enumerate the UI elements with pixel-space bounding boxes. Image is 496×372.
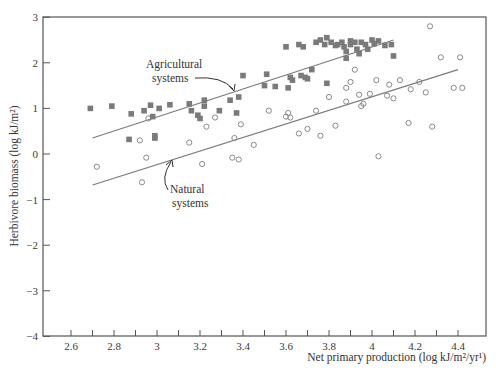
natural-point [305, 126, 310, 131]
natural-point [430, 124, 435, 129]
natural-point [333, 123, 338, 128]
agricultural-point [148, 102, 154, 108]
x-axis-label: Net primary production (log kJ/m²/yr¹) [307, 351, 486, 364]
natural-point [387, 82, 392, 87]
natural-point [344, 99, 349, 104]
agricultural-point [305, 76, 311, 82]
agricultural-point [150, 114, 156, 120]
agricultural-point [141, 108, 147, 114]
natural-point [236, 157, 241, 162]
natural-point [423, 90, 428, 95]
agricultural-point [285, 85, 291, 91]
y-tick-label: 0 [33, 148, 39, 160]
agricultural-systems-points [88, 35, 397, 142]
x-tick-label: 2.6 [64, 340, 78, 352]
agricultural-point [109, 103, 115, 109]
agricultural-point [309, 67, 315, 73]
annotations: AgriculturalsystemsNaturalsystems [146, 58, 235, 210]
natural-point [139, 180, 144, 185]
natural-point [460, 85, 465, 90]
scatter-chart: 2.62.833.23.43.63.844.24.4 3210−1−2−3−4 … [0, 0, 496, 372]
y-tick-label: 2 [33, 57, 39, 69]
agricultural-point [126, 137, 132, 143]
agricultural-point [262, 83, 268, 89]
agricultural-point [227, 97, 233, 103]
x-tick-label: 3.4 [236, 340, 250, 352]
agricultural-point [356, 51, 362, 57]
agricultural-point [324, 81, 330, 87]
y-tick-label: −4 [26, 330, 38, 342]
natural-point [397, 78, 402, 83]
agricultural-point [236, 94, 242, 100]
agricultural-point [186, 101, 192, 107]
agricultural-point [217, 108, 223, 114]
y-tick-label: 1 [33, 102, 39, 114]
x-tick-label: 3 [154, 340, 160, 352]
natural-point [296, 131, 301, 136]
natural-point [94, 164, 99, 169]
agricultural-point [128, 111, 134, 117]
agricultural-point [322, 42, 328, 48]
agricultural-point [300, 44, 306, 50]
y-tick-label: 3 [33, 11, 39, 23]
agricultural-point [167, 102, 173, 108]
agricultural-point [202, 103, 208, 109]
plot-frame [43, 17, 486, 336]
y-axis-label: Herbivore biomass (log kJ/m²) [8, 105, 21, 246]
natural-point [344, 85, 349, 90]
agricultural-point [343, 49, 349, 55]
natural-point [438, 55, 443, 60]
agricultural-point [202, 97, 208, 103]
natural-point [212, 115, 217, 120]
natural-point [348, 79, 353, 84]
natural-point [352, 67, 357, 72]
agricultural-point [88, 106, 94, 112]
natural-point [251, 142, 256, 147]
natural-point [357, 92, 362, 97]
agricultural-point [365, 46, 371, 52]
natural-point [408, 87, 413, 92]
natural-point [314, 108, 319, 113]
natural-point [374, 78, 379, 83]
natural-point [376, 154, 381, 159]
agricultural-point [389, 42, 395, 48]
agricultural-point [240, 73, 246, 79]
natural-point [187, 140, 192, 145]
natural-point [238, 122, 243, 127]
annotation-natural: Naturalsystems [170, 183, 209, 210]
x-tick-label: 2.8 [107, 340, 121, 352]
agricultural-point [290, 77, 296, 83]
natural-point [406, 120, 411, 125]
natural-point [391, 96, 396, 101]
agricultural-point [352, 39, 358, 45]
agricultural-point [391, 53, 397, 59]
annotation-agricultural: Agriculturalsystems [146, 58, 202, 85]
agricultural-point [382, 43, 388, 49]
natural-point [427, 24, 432, 29]
y-axis-ticks: 3210−1−2−3−4 [26, 11, 50, 342]
x-axis-ticks: 2.62.833.23.43.63.844.24.4 [64, 330, 465, 352]
annotation-arrow [195, 78, 233, 89]
natural-point [384, 93, 389, 98]
y-tick-label: −1 [26, 194, 38, 206]
agricultural-point [197, 116, 203, 122]
x-tick-label: 3.6 [279, 340, 293, 352]
natural-point [137, 138, 142, 143]
natural-point [204, 124, 209, 129]
agricultural-point [189, 108, 195, 114]
agricultural-point [376, 38, 382, 44]
natural-point [144, 155, 149, 160]
agricultural-point [264, 71, 270, 77]
natural-point [326, 94, 331, 99]
natural-point [266, 108, 271, 113]
natural-point [200, 161, 205, 166]
natural-point [458, 55, 463, 60]
natural-point [318, 133, 323, 138]
agricultural-point [343, 55, 349, 61]
agricultural-point [283, 44, 289, 50]
natural-point [451, 85, 456, 90]
agricultural-point [272, 84, 278, 90]
agricultural-point [234, 110, 240, 116]
agricultural-point [156, 106, 162, 112]
agricultural-point [152, 135, 158, 141]
